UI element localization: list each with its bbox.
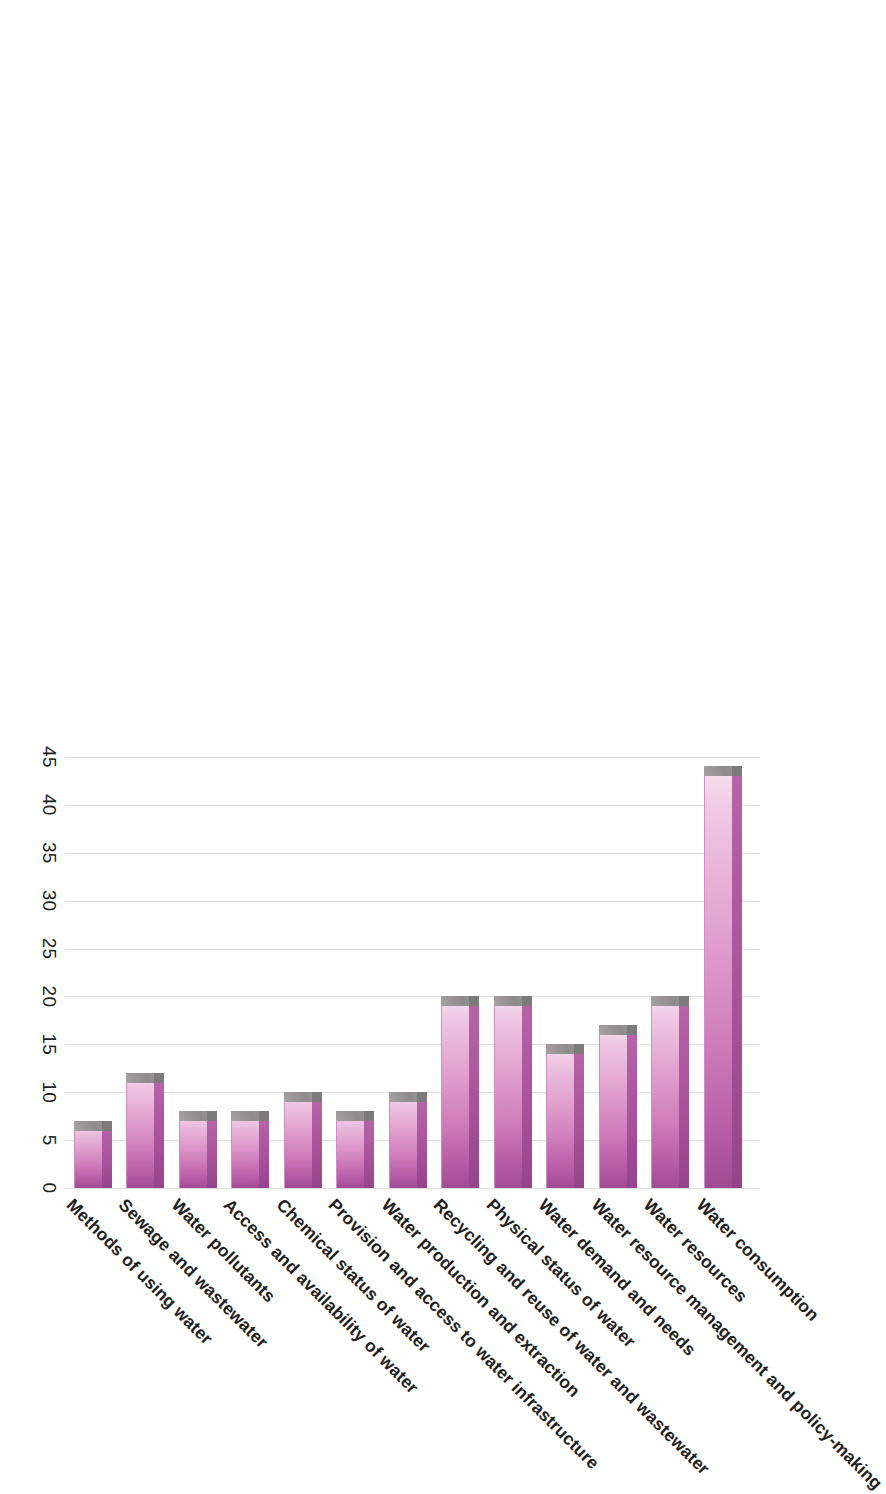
bar-end-cap [494,996,532,1006]
bar-front-face [652,996,681,1188]
tick-label-0: 0 [38,1183,60,1194]
bar-end-cap [179,1111,217,1121]
bar-top-face [627,1034,637,1188]
tick-label-5: 5 [38,1135,60,1146]
bar-front-face [337,1111,366,1188]
bar[interactable] [704,766,742,1188]
bar-front-face [442,996,471,1188]
bar-end-cap [599,1025,637,1035]
bar-body [704,766,742,1188]
bar-end-cap [547,1044,585,1054]
bar[interactable] [284,1092,322,1188]
bar-end-cap [74,1121,112,1131]
gridline-45 [65,757,760,758]
bar[interactable] [389,1092,427,1188]
gridline-30 [65,901,760,902]
bar[interactable] [232,1111,270,1188]
bar-body [599,1025,637,1188]
bar-body [389,1092,427,1188]
bar-front-face [232,1111,261,1188]
bar-front-face [704,766,733,1188]
bar-front-face [74,1121,103,1188]
tick-label-10: 10 [38,1081,60,1103]
bar[interactable] [494,996,532,1188]
gridline-25 [65,949,760,950]
gridline-35 [65,853,760,854]
bar-front-face [284,1092,313,1188]
bar-end-cap [127,1073,165,1083]
bar-end-cap [442,996,480,1006]
bar[interactable] [337,1111,375,1188]
bar-end-cap [284,1092,322,1102]
bar-front-face [127,1073,156,1188]
bar-front-face [599,1025,628,1188]
bar-body [284,1092,322,1188]
bar-body [179,1111,217,1188]
bar[interactable] [652,996,690,1188]
tick-label-20: 20 [38,986,60,1008]
bar-body [494,996,532,1188]
bar[interactable] [599,1025,637,1188]
bar[interactable] [127,1073,165,1188]
bar-end-cap [389,1092,427,1102]
bar[interactable] [547,1044,585,1188]
bar[interactable] [179,1111,217,1188]
bar-top-face [102,1130,112,1188]
bar-top-face [470,1005,480,1188]
bar-body [547,1044,585,1188]
bar-body [337,1111,375,1188]
bar-body [232,1111,270,1188]
bar-body [442,996,480,1188]
bar-end-cap [652,996,690,1006]
bar-front-face [494,996,523,1188]
bar-top-face [312,1101,322,1188]
bar-front-face [179,1111,208,1188]
bar-top-face [732,775,742,1188]
bar-top-face [365,1120,375,1188]
bar-top-face [417,1101,427,1188]
tick-label-25: 25 [38,938,60,960]
bar-top-face [155,1082,165,1188]
bar-body [127,1073,165,1188]
bar[interactable] [74,1121,112,1188]
bar-body [652,996,690,1188]
bar-top-face [522,1005,532,1188]
gridline-40 [65,805,760,806]
gridline-0 [65,1188,760,1189]
tick-label-35: 35 [38,842,60,864]
bar-top-face [575,1053,585,1188]
tick-label-45: 45 [38,746,60,768]
tick-label-15: 15 [38,1034,60,1056]
bar-body [74,1121,112,1188]
bar-end-cap [337,1111,375,1121]
bar-end-cap [704,766,742,776]
bar-front-face [547,1044,576,1188]
tick-label-30: 30 [38,890,60,912]
bar-front-face [389,1092,418,1188]
bar[interactable] [442,996,480,1188]
bar-top-face [207,1120,217,1188]
bar-top-face [680,1005,690,1188]
bar-top-face [260,1120,270,1188]
bar-end-cap [232,1111,270,1121]
tick-label-40: 40 [38,794,60,816]
